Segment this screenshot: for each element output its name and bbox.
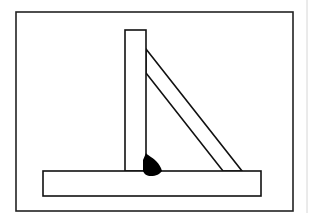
vertical-plate [125,30,146,171]
diagonal-brace [146,49,242,171]
fillet-weld [143,153,162,176]
welded-joint-diagram [0,0,309,213]
